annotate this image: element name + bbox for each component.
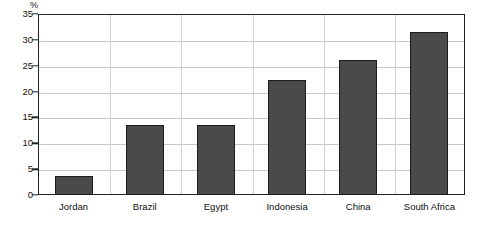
horizontal-gridline <box>39 118 464 119</box>
vertical-gridline <box>253 15 254 194</box>
x-tick-label: China <box>346 202 371 212</box>
x-tick-label: Jordan <box>59 202 88 212</box>
horizontal-gridline <box>39 93 464 94</box>
horizontal-gridline <box>39 67 464 68</box>
vertical-gridline <box>324 15 325 194</box>
vertical-gridline <box>110 15 111 194</box>
plot-area <box>38 14 465 195</box>
vertical-gridline <box>181 15 182 194</box>
x-tick-label: South Africa <box>404 202 455 212</box>
horizontal-gridline <box>39 144 464 145</box>
horizontal-gridline <box>39 41 464 42</box>
y-axis: 05101520253035 <box>0 0 38 234</box>
x-axis: JordanBrazilEgyptIndonesiaChinaSouth Afr… <box>38 198 465 218</box>
x-tick-label: Egypt <box>204 202 228 212</box>
horizontal-gridline <box>39 170 464 171</box>
vertical-gridline <box>395 15 396 194</box>
bar-chart: % 05101520253035 JordanBrazilEgyptIndone… <box>0 0 480 234</box>
x-tick-label: Indonesia <box>266 202 307 212</box>
x-tick-label: Brazil <box>133 202 157 212</box>
